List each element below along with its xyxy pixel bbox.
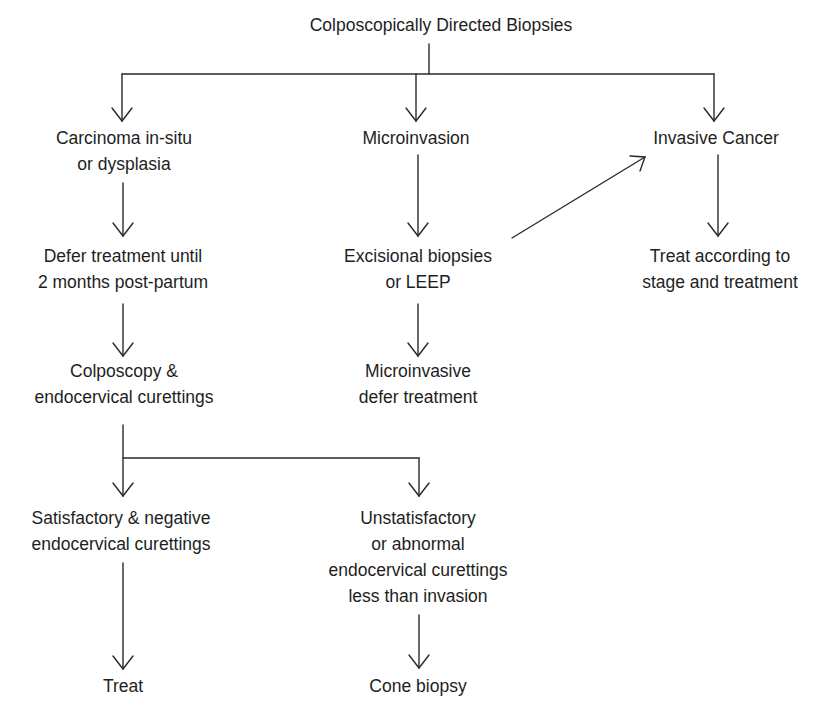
node-text: or abnormal	[329, 531, 508, 557]
node-text: or dysplasia	[56, 151, 192, 177]
arrow-root-to-cis	[112, 74, 132, 121]
node-treat-according-to-stage: Treat according to stage and treatment	[642, 243, 798, 295]
node-unsatisfactory-abnormal: Unstatisfactory or abnormal endocervical…	[329, 505, 508, 609]
node-text: Cone biopsy	[369, 673, 466, 699]
arrow-colposcopy-to-unsatisfactory	[409, 458, 429, 496]
node-text: Treat according to	[642, 243, 798, 269]
node-treat: Treat	[103, 673, 143, 699]
node-text: stage and treatment	[642, 269, 798, 295]
node-text: Satisfactory & negative	[32, 505, 211, 531]
node-excisional-biopsies: Excisional biopsies or LEEP	[344, 243, 492, 295]
node-text: defer treatment	[359, 384, 478, 410]
node-text: Microinvasive	[359, 358, 478, 384]
arrow-cis-to-defer	[113, 183, 133, 236]
node-defer-treatment: Defer treatment until 2 months post-part…	[38, 243, 208, 295]
node-cone-biopsy: Cone biopsy	[369, 673, 466, 699]
node-text: Excisional biopsies	[344, 243, 492, 269]
arrow-satisfactory-to-treat	[113, 563, 133, 669]
arrow-excisional-to-invasive	[512, 156, 645, 238]
arrow-excisional-to-micro-defer	[408, 304, 428, 356]
flowchart-canvas: Colposcopically Directed Biopsies Carcin…	[0, 0, 832, 726]
node-text: Carcinoma in-situ	[56, 125, 192, 151]
node-text: Colposcopy &	[35, 358, 214, 384]
node-text: 2 months post-partum	[38, 269, 208, 295]
node-text: endocervical curettings	[32, 531, 211, 557]
arrow-root-to-invasive	[704, 74, 724, 121]
node-microinvasion: Microinvasion	[363, 125, 470, 151]
arrow-root-to-microinvasion	[406, 74, 426, 121]
node-text: Unstatisfactory	[329, 505, 508, 531]
node-invasive-cancer: Invasive Cancer	[653, 125, 778, 151]
node-text: Colposcopically Directed Biopsies	[310, 12, 573, 38]
node-text: Invasive Cancer	[653, 125, 778, 151]
node-satisfactory-negative: Satisfactory & negative endocervical cur…	[32, 505, 211, 557]
node-microinvasive-defer: Microinvasive defer treatment	[359, 358, 478, 410]
node-colposcopically-directed-biopsies: Colposcopically Directed Biopsies	[310, 12, 573, 38]
node-text: Defer treatment until	[38, 243, 208, 269]
node-carcinoma-in-situ: Carcinoma in-situ or dysplasia	[56, 125, 192, 177]
node-text: Treat	[103, 673, 143, 699]
node-text: or LEEP	[344, 269, 492, 295]
node-colposcopy-ecc: Colposcopy & endocervical curettings	[35, 358, 214, 410]
node-text: endocervical curettings	[329, 557, 508, 583]
node-text: Microinvasion	[363, 125, 470, 151]
arrow-microinvasion-to-excisional	[408, 155, 428, 236]
arrow-defer-to-colposcopy	[113, 304, 133, 356]
node-text: endocervical curettings	[35, 384, 214, 410]
arrow-invasive-to-treat-stage	[708, 155, 728, 236]
node-text: less than invasion	[329, 583, 508, 609]
arrow-unsatisfactory-to-cone	[409, 615, 429, 668]
